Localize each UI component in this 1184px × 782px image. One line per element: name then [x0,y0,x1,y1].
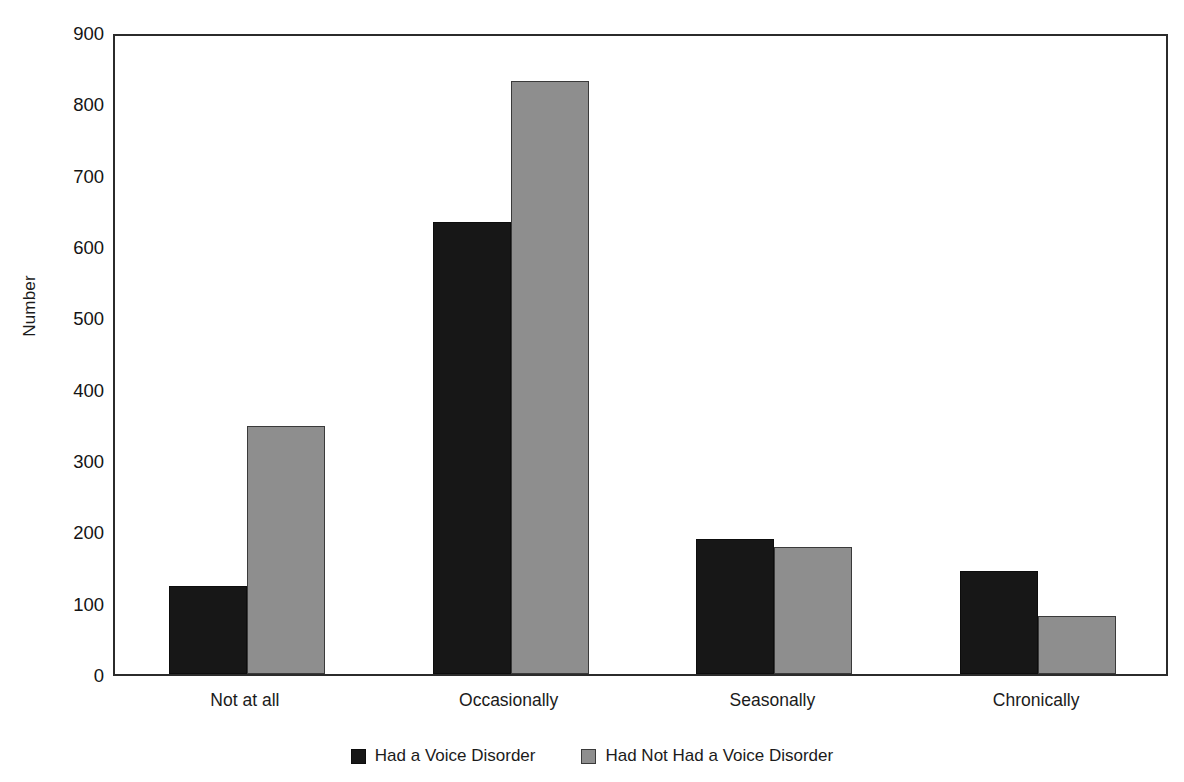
legend-label: Had a Voice Disorder [375,746,536,766]
bar-series-container [115,36,1166,674]
y-tick-label: 200 [0,522,104,544]
chart-legend: Had a Voice Disorder Had Not Had a Voice… [0,746,1184,766]
bar-occasionally-series-2 [511,81,589,674]
bar-chronically-series-1 [960,571,1038,674]
y-tick-label: 0 [0,665,104,687]
x-tick-label: Not at all [210,690,279,711]
bar-occasionally-series-1 [433,222,511,674]
bar-seasonally-series-2 [774,547,852,674]
bar-chronically-series-2 [1038,616,1116,674]
x-axis-tick-labels: Not at allOccasionallySeasonallyChronica… [113,690,1168,720]
legend-label: Had Not Had a Voice Disorder [605,746,833,766]
bar-chart-figure: Number 0100200300400500600700800900 Not … [0,0,1184,782]
y-tick-label: 500 [0,308,104,330]
gray-swatch-icon [581,749,596,764]
x-tick-label: Seasonally [730,690,816,711]
x-tick-label: Occasionally [459,690,558,711]
y-tick-label: 700 [0,166,104,188]
y-tick-label: 600 [0,237,104,259]
plot-area [113,34,1168,676]
y-axis-tick-labels: 0100200300400500600700800900 [0,0,104,782]
y-tick-label: 100 [0,594,104,616]
y-tick-label: 800 [0,94,104,116]
x-tick-label: Chronically [993,690,1080,711]
bar-seasonally-series-1 [696,539,774,674]
bar-not-at-all-series-2 [247,426,325,674]
bar-not-at-all-series-1 [169,586,247,674]
y-tick-label: 400 [0,380,104,402]
legend-item-had-not-had-a-voice-disorder: Had Not Had a Voice Disorder [581,746,833,766]
y-tick-label: 300 [0,451,104,473]
dark-swatch-icon [351,749,366,764]
legend-item-had-a-voice-disorder: Had a Voice Disorder [351,746,536,766]
y-tick-label: 900 [0,23,104,45]
